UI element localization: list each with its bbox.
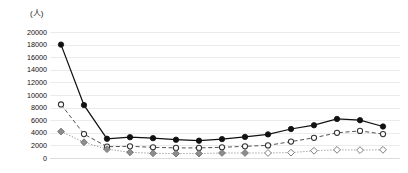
data-point: [311, 135, 316, 140]
data-point: [311, 147, 318, 154]
data-point: [81, 102, 86, 107]
data-point: [265, 143, 270, 148]
data-point: [196, 150, 203, 157]
data-point: [81, 139, 88, 146]
data-point: [242, 134, 247, 139]
data-point: [334, 130, 339, 135]
data-point: [265, 150, 272, 157]
data-point: [334, 146, 341, 153]
series-2: [58, 102, 385, 151]
series-1: [58, 42, 385, 143]
data-point: [357, 118, 362, 123]
data-point: [127, 149, 134, 156]
data-point: [219, 150, 226, 157]
data-point: [127, 135, 132, 140]
data-point: [288, 126, 293, 131]
data-point: [150, 150, 157, 157]
data-point: [196, 138, 201, 143]
data-point: [357, 128, 362, 133]
data-point: [173, 137, 178, 142]
data-point: [242, 144, 247, 149]
data-point: [334, 116, 339, 121]
data-point: [104, 136, 109, 141]
data-point: [219, 136, 224, 141]
data-point: [150, 145, 155, 150]
data-point: [127, 144, 132, 149]
series-line: [61, 45, 383, 141]
data-point: [58, 128, 65, 135]
data-point: [288, 139, 293, 144]
data-point: [58, 42, 63, 47]
chart-series-layer: [0, 0, 408, 173]
data-point: [357, 147, 364, 154]
data-point: [58, 102, 63, 107]
data-point: [311, 123, 316, 128]
data-point: [173, 150, 180, 157]
data-point: [380, 131, 385, 136]
data-point: [242, 150, 249, 157]
line-chart: (人) 200001800016000140001200010000800060…: [0, 0, 408, 173]
data-point: [150, 135, 155, 140]
data-point: [81, 131, 86, 136]
data-point: [380, 146, 387, 153]
data-point: [288, 149, 295, 156]
data-point: [380, 124, 385, 129]
data-point: [265, 132, 270, 137]
